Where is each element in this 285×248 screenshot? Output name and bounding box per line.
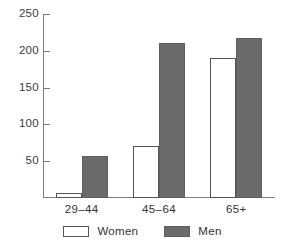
x-axis-label-2: 65+ xyxy=(196,204,276,216)
y-axis-tick-label: 250 xyxy=(3,8,39,20)
bar-women-1 xyxy=(133,146,159,198)
legend-label: Women xyxy=(97,226,138,238)
bar-chart: 50100150200250 29‒4445‒6465+ WomenMen xyxy=(0,0,285,248)
legend-label: Men xyxy=(198,226,221,238)
chart-legend: WomenMen xyxy=(0,226,285,238)
x-axis-label-1: 45‒64 xyxy=(119,204,199,216)
bar-women-2 xyxy=(210,58,236,198)
x-axis-label-0: 29‒44 xyxy=(42,204,122,216)
y-axis-tick-label: 200 xyxy=(3,45,39,57)
bar-men-0 xyxy=(82,156,108,198)
white-swatch xyxy=(63,226,89,237)
y-axis-tick-label: 150 xyxy=(3,82,39,94)
bar-men-1 xyxy=(159,43,185,198)
y-axis-tick-label: 50 xyxy=(3,155,39,167)
plot-area xyxy=(43,14,275,198)
legend-item-women[interactable]: Women xyxy=(63,226,138,238)
bar-women-0 xyxy=(56,193,82,198)
gray-swatch xyxy=(164,226,190,237)
legend-item-men[interactable]: Men xyxy=(164,226,221,238)
bar-men-2 xyxy=(236,38,262,198)
y-axis-tick-label: 100 xyxy=(3,118,39,130)
